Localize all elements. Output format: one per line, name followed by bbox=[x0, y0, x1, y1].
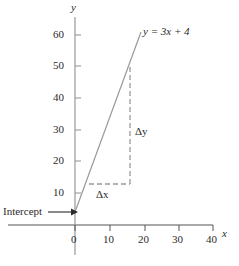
x-tick-label-30: 30 bbox=[172, 234, 183, 245]
y-tick-label-10: 10 bbox=[53, 187, 64, 198]
line-graph-figure: y x y = 3x + 4 60 50 40 30 20 10 0 10 20… bbox=[0, 0, 239, 266]
delta-y-label: Δy bbox=[135, 126, 148, 137]
intercept-arrow bbox=[48, 209, 78, 216]
y-tick-label-20: 20 bbox=[53, 155, 64, 166]
y-tick-label-40: 40 bbox=[53, 92, 64, 103]
y-tick-label-50: 50 bbox=[53, 60, 64, 71]
intercept-label: Intercept bbox=[3, 206, 42, 217]
x-tick-label-40: 40 bbox=[206, 234, 217, 245]
plot-area bbox=[0, 0, 239, 266]
delta-x-label: Δx bbox=[96, 189, 109, 200]
y-tick-label-30: 30 bbox=[53, 124, 64, 135]
equation-label: y = 3x + 4 bbox=[143, 26, 190, 37]
x-tick-label-10: 10 bbox=[103, 234, 114, 245]
y-tick-label-60: 60 bbox=[53, 29, 64, 40]
data-line bbox=[75, 32, 141, 212]
y-axis-label: y bbox=[71, 2, 76, 13]
x-tick-label-20: 20 bbox=[138, 234, 149, 245]
y-axis-ticks bbox=[75, 35, 81, 193]
x-axis-ticks bbox=[75, 225, 213, 231]
x-axis-label: x bbox=[222, 228, 227, 239]
x-tick-label-0: 0 bbox=[71, 234, 77, 245]
